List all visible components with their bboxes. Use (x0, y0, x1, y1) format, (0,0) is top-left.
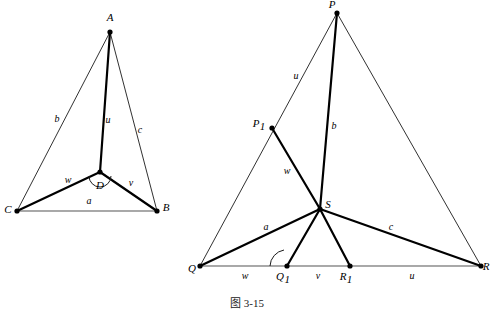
vertex-label-P: P (328, 0, 336, 10)
segment-label-v: v (316, 270, 321, 281)
vertex-dot-Q (197, 263, 202, 268)
edge-P-Q (200, 13, 337, 266)
vertex-label-D: D (95, 179, 104, 191)
edge-Q-S (200, 209, 320, 266)
vertex-dot-C (14, 208, 19, 213)
edge-label-P-S: b (332, 120, 337, 131)
edge-label-A-D: u (106, 114, 111, 125)
edge-P-S (320, 13, 337, 209)
vertex-label-R1: R1 (339, 270, 353, 285)
edge-P1-S (272, 128, 320, 209)
geometry-figure-svg: ABCDbcauwv PQRSP1Q1R1ubwacwvu 图 3-15 (0, 0, 494, 315)
edge-P-R (337, 13, 481, 266)
edge-label-A-C: b (55, 113, 60, 124)
edge-label-A-B: c (138, 124, 143, 135)
vertex-label-P1: P1 (252, 117, 266, 132)
vertex-label-Q: Q (188, 262, 196, 274)
segment-label-w: w (242, 270, 249, 281)
figure-container: ABCDbcauwv PQRSP1Q1R1ubwacwvu 图 3-15 (0, 0, 494, 315)
segment-label-u: u (410, 270, 415, 281)
figure-caption: 图 3-15 (230, 297, 264, 309)
vertex-dot-D (97, 169, 102, 174)
edge-label-S-R: c (389, 221, 394, 232)
left-triangle-figure: ABCDbcauwv (4, 11, 169, 215)
edge-label-C-B: a (87, 195, 92, 206)
angle-arc-at-Q1 (270, 250, 284, 266)
vertex-dot-P (334, 10, 339, 15)
vertex-label-Q1: Q1 (276, 270, 290, 285)
vertex-label-R: R (482, 260, 490, 272)
vertex-dot-A (107, 29, 112, 34)
vertex-subscript-Q1: 1 (284, 273, 290, 285)
vertex-dot-B (154, 208, 159, 213)
right-triangle-figure: PQRSP1Q1R1ubwacwvu (188, 0, 490, 285)
vertex-dot-S (317, 206, 322, 211)
edge-label-D-C: w (65, 174, 72, 185)
edge-S-R (320, 209, 481, 266)
vertex-subscript-P1: 1 (260, 120, 266, 132)
vertex-subscript-R1: 1 (347, 273, 353, 285)
edge-label-P-Q: u (294, 70, 299, 81)
vertex-label-B: B (163, 201, 170, 213)
vertex-dot-P1 (269, 125, 274, 130)
vertex-label-C: C (4, 203, 12, 215)
vertex-dot-Q1 (284, 263, 289, 268)
edge-A-D (100, 32, 110, 172)
edge-label-P1-S: w (284, 165, 291, 176)
edge-label-Q-S: a (264, 221, 269, 232)
vertex-dot-R1 (347, 263, 352, 268)
vertex-label-A: A (106, 11, 114, 23)
edge-label-D-B: v (129, 177, 134, 188)
vertex-label-S: S (325, 198, 331, 210)
